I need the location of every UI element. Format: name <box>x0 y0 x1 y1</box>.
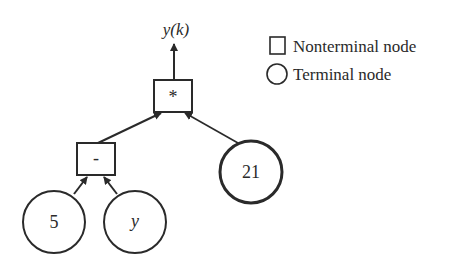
node-const-21: 21 <box>220 141 282 203</box>
expression-tree-diagram: y(k) * - 21 5 y Nonterminal node Termi <box>0 0 471 269</box>
edge-y-to-minus <box>104 177 117 194</box>
legend-item-nonterminal: Nonterminal node <box>270 37 416 56</box>
node-multiply: * <box>154 80 192 112</box>
edge-5-to-minus <box>74 177 87 194</box>
node-label: y <box>129 211 139 231</box>
edge-21-to-mult <box>185 113 238 143</box>
edge-minus-to-mult <box>98 113 161 143</box>
node-const-5: 5 <box>23 191 85 253</box>
node-label: * <box>169 87 178 107</box>
legend-label: Nonterminal node <box>293 37 416 56</box>
output-label: y(k) <box>161 20 190 39</box>
node-label: 5 <box>50 212 59 232</box>
circle-icon <box>267 64 287 84</box>
legend: Nonterminal node Terminal node <box>267 37 416 84</box>
node-var-y: y <box>104 191 166 253</box>
node-label: - <box>93 148 99 168</box>
legend-item-terminal: Terminal node <box>267 64 391 84</box>
legend-label: Terminal node <box>293 65 391 84</box>
square-icon <box>270 37 285 54</box>
node-minus: - <box>77 143 115 175</box>
node-label: 21 <box>242 162 260 182</box>
